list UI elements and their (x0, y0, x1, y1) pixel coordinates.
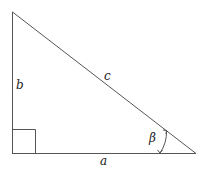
right-triangle-diagram: b c a β (0, 0, 208, 172)
arc-arrowhead-top (163, 130, 167, 134)
side-c-label: c (104, 69, 111, 83)
right-angle-marker (13, 130, 36, 154)
angle-beta-label: β (148, 131, 156, 145)
arc-arrowhead-bottom (158, 150, 163, 153)
side-b-label: b (16, 78, 24, 92)
side-a-label: a (100, 154, 107, 168)
